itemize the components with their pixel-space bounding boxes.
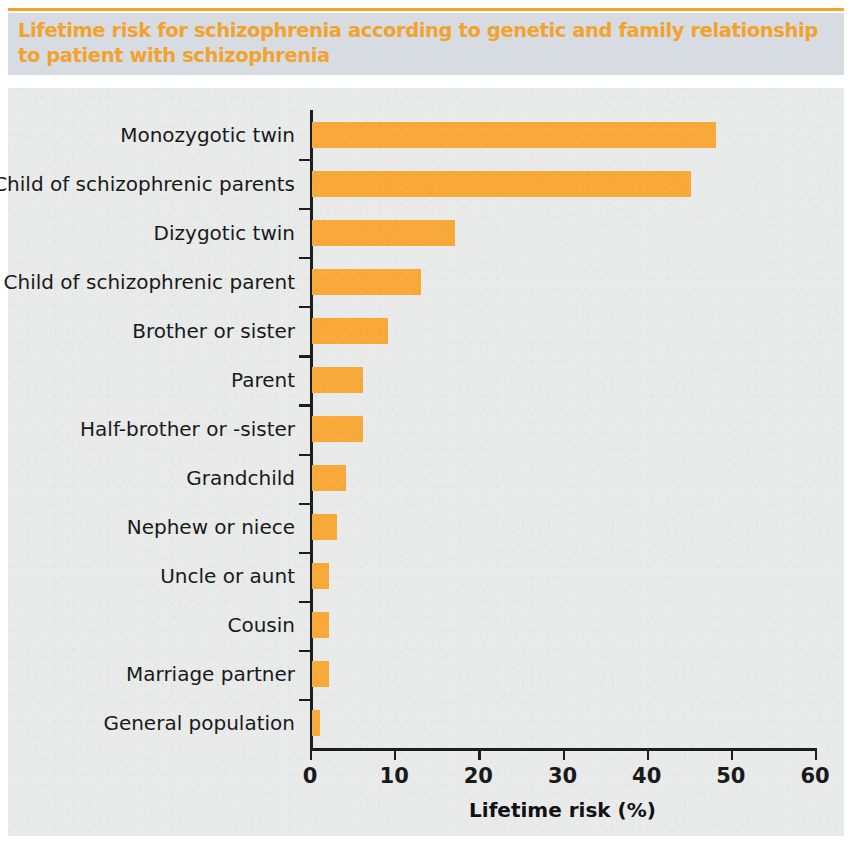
figure-container: Lifetime risk for schizophrenia accordin… [0, 0, 852, 844]
bar [312, 416, 363, 442]
page-title: Lifetime risk for schizophrenia accordin… [18, 18, 836, 68]
category-label: Parent [231, 369, 295, 391]
y-axis-tick [299, 257, 311, 259]
bar-row: Half-brother or -sister [310, 404, 815, 453]
x-axis-tick-label: 40 [617, 764, 677, 788]
bar-row: Parent [310, 355, 815, 404]
bar [312, 465, 346, 491]
title-top-rule [8, 8, 844, 11]
category-label: Nephew or niece [127, 516, 295, 538]
y-axis-tick [299, 159, 311, 161]
bar [312, 710, 320, 736]
bar-row: Grandchild [310, 454, 815, 503]
y-axis-tick [299, 208, 311, 210]
bar-row: Uncle or aunt [310, 552, 815, 601]
y-axis-tick [299, 552, 311, 554]
x-axis-tick-label: 0 [280, 764, 340, 788]
category-label: Child of schizophrenic parent [4, 271, 295, 293]
bar [312, 318, 388, 344]
y-axis-tick [299, 601, 311, 603]
bar [312, 661, 329, 687]
bar-row: Child of schizophrenic parent [310, 257, 815, 306]
category-label: General population [103, 712, 295, 734]
bar [312, 171, 691, 197]
x-axis-tick [647, 748, 649, 760]
bar [312, 269, 421, 295]
x-axis-tick [731, 748, 733, 760]
bar [312, 220, 455, 246]
bar [312, 612, 329, 638]
bar-row: Monozygotic twin [310, 110, 815, 159]
bar-row: Marriage partner [310, 650, 815, 699]
category-label: Cousin [227, 614, 295, 636]
x-axis-tick-label: 60 [785, 764, 845, 788]
x-axis-tick [563, 748, 565, 760]
category-label: Monozygotic twin [120, 124, 295, 146]
bar [312, 514, 337, 540]
bar-row: Brother or sister [310, 306, 815, 355]
y-axis-tick [299, 404, 311, 406]
x-axis-tick-label: 50 [701, 764, 761, 788]
category-label: Uncle or aunt [160, 565, 295, 587]
x-axis-tick [310, 748, 312, 760]
chart-panel: Monozygotic twinChild of schizophrenic p… [8, 88, 844, 836]
bar [312, 367, 363, 393]
x-axis-tick [478, 748, 480, 760]
y-axis-tick [299, 650, 311, 652]
bar [312, 563, 329, 589]
y-axis-tick [299, 454, 311, 456]
plot-area: Monozygotic twinChild of schizophrenic p… [310, 110, 815, 748]
x-axis-tick [394, 748, 396, 760]
category-label: Dizygotic twin [154, 222, 295, 244]
x-axis-tick-label: 20 [448, 764, 508, 788]
x-axis-tick [815, 748, 817, 760]
x-axis-tick-label: 10 [364, 764, 424, 788]
x-axis-tick-label: 30 [533, 764, 593, 788]
bar-row: General population [310, 699, 815, 748]
title-band: Lifetime risk for schizophrenia accordin… [8, 13, 844, 75]
bar-row: Dizygotic twin [310, 208, 815, 257]
y-axis-tick [299, 306, 311, 308]
bar-row: Cousin [310, 601, 815, 650]
category-label: Half-brother or -sister [80, 418, 295, 440]
category-label: Marriage partner [126, 663, 295, 685]
category-label: Brother or sister [132, 320, 295, 342]
bar-row: Child of schizophrenic parents [310, 159, 815, 208]
bar [312, 122, 716, 148]
category-label: Child of schizophrenic parents [0, 173, 295, 195]
category-label: Grandchild [186, 467, 295, 489]
y-axis-tick [299, 699, 311, 701]
x-axis-label: Lifetime risk (%) [310, 798, 815, 822]
bar-row: Nephew or niece [310, 503, 815, 552]
y-axis-tick [299, 503, 311, 505]
y-axis-tick [299, 355, 311, 357]
